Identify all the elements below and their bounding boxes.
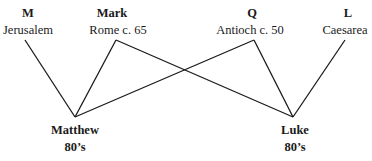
- edge-l-luke: [293, 40, 345, 117]
- edge-q-matthew: [75, 40, 254, 117]
- source-letter-q: Q: [247, 7, 257, 20]
- gospel-matthew-name: Matthew: [51, 124, 99, 137]
- source-place-rome: Rome c. 65: [89, 24, 146, 37]
- gospel-luke-date: 80’s: [284, 141, 305, 154]
- source-letter-l: L: [344, 7, 352, 20]
- source-letter-mark: Mark: [97, 7, 128, 20]
- edge-mark-luke: [116, 40, 293, 117]
- edge-q-luke: [254, 40, 293, 117]
- gospel-luke-name: Luke: [281, 124, 309, 137]
- source-letter-m: M: [22, 7, 34, 20]
- gospel-matthew-date: 80’s: [64, 141, 85, 154]
- source-place-caesarea: Caesarea: [322, 24, 367, 37]
- source-place-jerusalem: Jerusalem: [3, 24, 53, 37]
- source-place-antioch: Antioch c. 50: [216, 24, 284, 37]
- edge-m-matthew: [25, 40, 75, 117]
- edge-mark-matthew: [75, 40, 116, 117]
